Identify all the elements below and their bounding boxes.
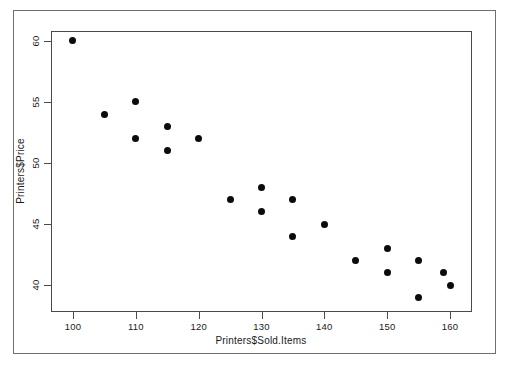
x-axis-tick-label: 110 <box>128 321 144 332</box>
x-axis-tick-label: 160 <box>442 321 458 332</box>
x-axis-tick <box>450 312 451 319</box>
y-axis-tick-label: 45 <box>30 216 41 232</box>
x-axis-tick-label: 100 <box>65 321 81 332</box>
y-axis-tick <box>44 224 51 225</box>
x-axis-tick <box>73 312 74 319</box>
y-axis-tick <box>44 163 51 164</box>
x-axis-tick <box>387 312 388 319</box>
x-axis-tick <box>262 312 263 319</box>
y-axis-tick-label: 60 <box>30 33 41 49</box>
x-axis-tick-label: 130 <box>253 321 269 332</box>
y-axis-tick <box>44 285 51 286</box>
plot-panel-box <box>51 31 472 312</box>
x-axis-tick <box>199 312 200 319</box>
x-axis-tick-label: 120 <box>190 321 206 332</box>
y-axis-tick-label: 40 <box>30 277 41 293</box>
x-axis-tick <box>324 312 325 319</box>
scatter-plot-figure: 1001101201301401501604045505560 Printers… <box>0 0 510 366</box>
x-axis-label: Printers$Sold.Items <box>215 335 306 346</box>
y-axis-tick-label: 55 <box>30 94 41 110</box>
x-axis-tick <box>136 312 137 319</box>
y-axis-tick-label: 50 <box>30 155 41 171</box>
x-axis-tick-label: 150 <box>379 321 395 332</box>
y-axis-label: Printers$Price <box>15 138 26 204</box>
x-axis-tick-label: 140 <box>316 321 332 332</box>
y-axis-tick <box>44 41 51 42</box>
y-axis-tick <box>44 102 51 103</box>
